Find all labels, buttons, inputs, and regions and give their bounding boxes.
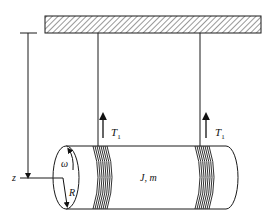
- radius-label: R: [68, 187, 75, 198]
- tension-label-left: T1: [111, 126, 121, 141]
- ceiling-support: [45, 16, 261, 33]
- axis-label-z: z: [11, 172, 16, 183]
- right-string-winding: [195, 146, 214, 209]
- tension-label-right: T1: [215, 126, 225, 141]
- yo-yo-cylinder-diagram: T1 T1: [0, 0, 274, 218]
- body-label: J, m: [140, 172, 157, 183]
- left-string-winding: [93, 146, 112, 209]
- height-dimension: [20, 33, 37, 176]
- omega-label: ω: [61, 158, 68, 169]
